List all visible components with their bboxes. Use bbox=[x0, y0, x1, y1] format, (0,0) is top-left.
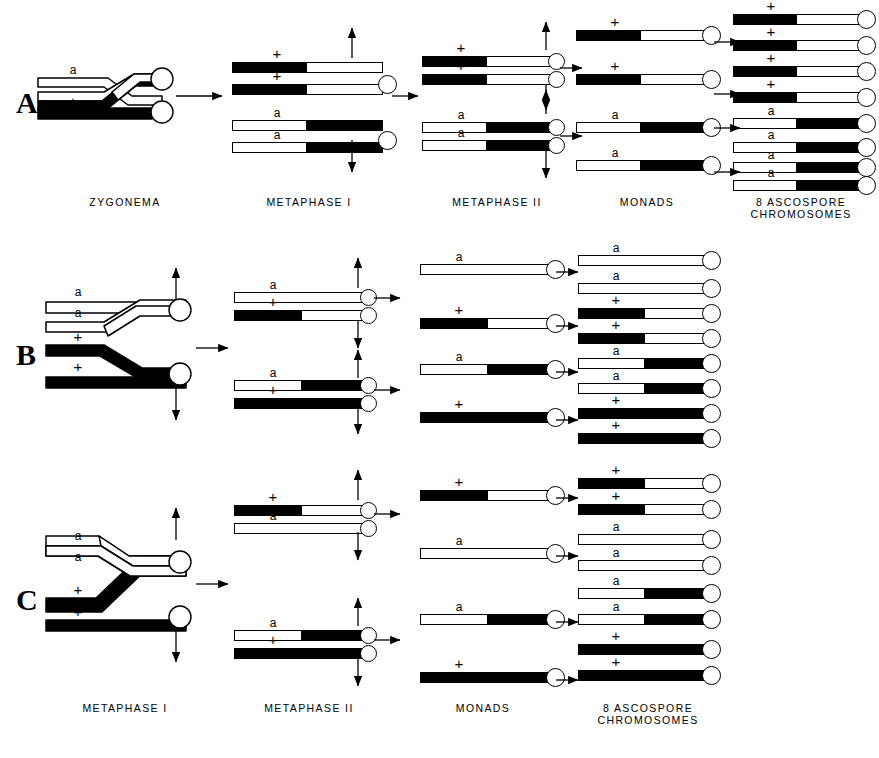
chromatid-segment-white bbox=[641, 30, 707, 41]
chromatid-segment-white bbox=[641, 74, 707, 85]
zygonema-strand-a1 bbox=[38, 78, 162, 105]
allele-label-plus: + bbox=[263, 295, 283, 308]
allele-label-a: a bbox=[75, 529, 82, 543]
stage-label: MONADS bbox=[592, 196, 702, 208]
centromere bbox=[360, 627, 377, 644]
allele-label-plus: + bbox=[267, 47, 287, 60]
stage-label: METAPHASE ΙΙ bbox=[244, 702, 374, 714]
allele-label-a: a bbox=[451, 109, 471, 121]
allele-label-a: a bbox=[761, 149, 781, 161]
centromere bbox=[702, 429, 721, 448]
chromatid-segment-black bbox=[578, 433, 706, 444]
chromatid-segment-white bbox=[422, 140, 487, 151]
rowB-m1-chromatid-a1 bbox=[46, 302, 186, 313]
allele-label-a: a bbox=[263, 367, 283, 379]
allele-label-plus: + bbox=[449, 475, 469, 488]
centromere bbox=[702, 584, 721, 603]
centromere bbox=[702, 70, 721, 89]
chromatid-segment-black bbox=[645, 614, 707, 625]
centromere bbox=[546, 314, 565, 333]
allele-label-plus: + bbox=[606, 318, 626, 331]
allele-label-plus: + bbox=[761, 0, 781, 12]
allele-label-plus: + bbox=[449, 303, 469, 316]
chromatid-segment-black bbox=[733, 66, 797, 77]
centromere bbox=[857, 62, 876, 81]
stage-label: MONADS bbox=[428, 702, 538, 714]
allele-label-a: a bbox=[263, 279, 283, 291]
allele-label-a: a bbox=[451, 127, 471, 139]
centromere bbox=[702, 26, 721, 45]
rowC-m1-chromatid-a1 bbox=[46, 536, 186, 566]
allele-label-plus: + bbox=[267, 69, 287, 82]
zygonema-strand-overlay bbox=[112, 74, 162, 100]
allele-label-a: a bbox=[606, 242, 626, 254]
chromatid-segment-black bbox=[576, 30, 641, 41]
allele-label-a: a bbox=[70, 63, 77, 77]
centromere-zygonema-bottom bbox=[151, 101, 173, 123]
rowB-m1-chromatid-plus2 bbox=[46, 377, 186, 388]
centromere bbox=[360, 645, 377, 662]
stage-label-line1: METAPHASE I bbox=[82, 702, 167, 714]
chromatid-segment-black bbox=[733, 92, 797, 103]
chromatid-segment-white bbox=[578, 588, 645, 599]
chromatid-segment-black bbox=[641, 122, 707, 133]
chromatid-segment-black bbox=[576, 74, 641, 85]
chromatid-segment-black bbox=[307, 120, 383, 131]
centromere bbox=[857, 36, 876, 55]
stage-label: 8 ASCOSPORECHROMOSOMES bbox=[731, 196, 871, 220]
chromatid-segment-black bbox=[578, 504, 645, 515]
allele-label-plus: + bbox=[761, 25, 781, 38]
row-letter-b: B bbox=[16, 340, 36, 370]
allele-label-plus: + bbox=[606, 293, 626, 306]
chromatid-segment-white bbox=[645, 478, 707, 489]
allele-label-a: a bbox=[267, 129, 287, 141]
chromatid-segment-black bbox=[797, 162, 862, 173]
chromatid-segment-black bbox=[488, 364, 551, 375]
centromere bbox=[702, 500, 721, 519]
chromatid-segment-white bbox=[488, 490, 551, 501]
allele-label-a: a bbox=[605, 147, 625, 159]
centromere bbox=[702, 379, 721, 398]
stage-label-line1: MONADS bbox=[456, 702, 511, 714]
centromere bbox=[378, 75, 397, 94]
chromatid-segment-white bbox=[797, 14, 862, 25]
allele-label-plus: + bbox=[69, 93, 78, 110]
chromatid-segment-black bbox=[302, 630, 365, 641]
chromatid-segment-white bbox=[578, 358, 645, 369]
allele-label-a: a bbox=[606, 601, 626, 613]
allele-label-a: a bbox=[606, 345, 626, 357]
allele-label-a: a bbox=[606, 521, 626, 533]
allele-label-plus: + bbox=[606, 629, 626, 642]
chromatid-segment-white bbox=[307, 84, 383, 95]
stage-label: 8 ASCOSPORECHROMOSOMES bbox=[578, 702, 718, 726]
allele-label-a: a bbox=[606, 575, 626, 587]
chromatid-segment-black bbox=[578, 670, 706, 681]
chromatid-segment-white bbox=[234, 523, 364, 534]
chromatid-segment-white bbox=[645, 308, 707, 319]
stage-label-line1: 8 ASCOSPORE bbox=[603, 702, 693, 714]
chromatid-segment-white bbox=[420, 614, 488, 625]
allele-label-a: a bbox=[75, 550, 82, 564]
stage-label-line1: MONADS bbox=[620, 196, 675, 208]
chromatid-segment-black bbox=[302, 380, 365, 391]
allele-label-plus: + bbox=[605, 15, 625, 28]
chromatid-segment-black bbox=[645, 588, 707, 599]
allele-label-plus: + bbox=[606, 655, 626, 668]
chromatid-segment-white bbox=[302, 505, 365, 516]
centromere-zygonema-top bbox=[151, 68, 173, 90]
chromatid-segment-black bbox=[733, 40, 797, 51]
chromatid-segment-black bbox=[234, 648, 364, 659]
centromere bbox=[702, 474, 721, 493]
stage-label-line1: METAPHASE I bbox=[266, 196, 351, 208]
allele-label-a: a bbox=[263, 617, 283, 629]
chromatid-segment-black bbox=[733, 14, 797, 25]
allele-label-a: a bbox=[267, 107, 287, 119]
row-letter-c: C bbox=[16, 585, 38, 615]
centromere-rowB-m1-bottom bbox=[169, 363, 191, 385]
chromatid-segment-black bbox=[420, 672, 550, 683]
centromere bbox=[360, 307, 377, 324]
centromere bbox=[548, 71, 565, 88]
allele-label-a: a bbox=[606, 370, 626, 382]
chromatid-segment-black bbox=[641, 160, 707, 171]
allele-label-a: a bbox=[605, 109, 625, 121]
